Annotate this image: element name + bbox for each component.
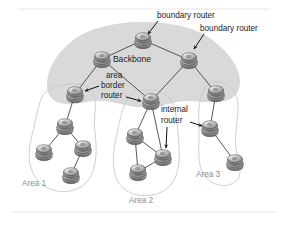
- area-border-router-area3: [208, 86, 224, 102]
- area3-internal-router: [202, 121, 218, 137]
- area3-label: Area 3: [196, 170, 221, 179]
- area-border-router-area1: [67, 87, 83, 103]
- area-border-router-label-line3: router: [101, 91, 123, 100]
- area3-router-bottom: [227, 155, 243, 171]
- ospf-hierarchy-figure: Backbone boundary router boundary router…: [0, 0, 287, 226]
- backbone-router-left: [94, 52, 110, 68]
- boundary-router-1-label: boundary router: [157, 11, 215, 20]
- area-border-router-label-line2: border: [101, 81, 125, 90]
- internal-router-label-line2: router: [161, 116, 183, 125]
- area1-label: Area 1: [22, 179, 47, 188]
- internal-router-label-line1: internal: [161, 105, 188, 114]
- area-border-router-label-line1: area: [106, 71, 123, 80]
- area2-router-bottom: [130, 165, 146, 181]
- backbone-router-right: [181, 53, 197, 69]
- area-border-router-area2: [143, 94, 159, 110]
- backbone-router-top: [135, 33, 151, 49]
- area1-router-bottom: [63, 168, 79, 184]
- boundary-router-2-label: boundary router: [200, 24, 258, 33]
- backbone-label: Backbone: [113, 54, 151, 64]
- area2-router-left: [127, 129, 143, 145]
- area1-router-left: [36, 145, 52, 161]
- diagram-canvas: Backbone boundary router boundary router…: [0, 0, 287, 226]
- area1-router-right: [75, 141, 91, 157]
- area2-internal-router: [155, 150, 171, 166]
- area1-router-upper: [57, 119, 73, 135]
- area2-label: Area 2: [129, 196, 154, 205]
